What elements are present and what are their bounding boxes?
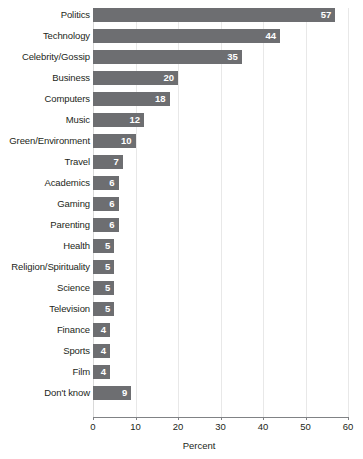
category-label: Religion/Spirituality [11,260,90,274]
bar-container: 5 [93,260,114,274]
bar-container: 4 [93,344,110,358]
chart-row: Celebrity/Gossip35 [0,50,363,71]
bar-value-label: 5 [105,281,110,295]
chart-rows: Politics57Technology44Celebrity/Gossip35… [0,8,363,407]
bar: 44 [93,29,280,43]
bar: 12 [93,113,144,127]
bar-value-label: 57 [321,8,332,22]
tick-label-40: 40 [258,421,269,432]
category-label: Parenting [50,218,90,232]
bar-container: 20 [93,71,178,85]
chart-row: Gaming6 [0,197,363,218]
tick-label-0: 0 [90,421,95,432]
bar-value-label: 5 [105,239,110,253]
chart-row: Technology44 [0,29,363,50]
chart-row: Politics57 [0,8,363,29]
bar-value-label: 12 [129,113,140,127]
bar: 35 [93,50,242,64]
bar-container: 6 [93,197,119,211]
tick-mark-0 [93,417,94,420]
category-label: Music [66,113,90,127]
category-label: Sports [63,344,90,358]
tick-mark-60 [348,417,349,420]
chart-row: Don't know9 [0,386,363,407]
bar-container: 44 [93,29,280,43]
bar-value-label: 35 [227,50,238,64]
category-label: Technology [43,29,90,43]
bar-value-label: 6 [109,176,114,190]
tick-mark-50 [306,417,307,420]
tick-mark-20 [178,417,179,420]
chart-row: Green/Environment10 [0,134,363,155]
bar: 4 [93,365,110,379]
tick-label-60: 60 [343,421,354,432]
bar-container: 9 [93,386,131,400]
bar: 5 [93,239,114,253]
bar-container: 6 [93,218,119,232]
category-label: Politics [61,8,90,22]
bar-container: 4 [93,323,110,337]
bar-value-label: 4 [101,365,106,379]
bar: 57 [93,8,335,22]
category-label: Travel [65,155,90,169]
bar: 5 [93,302,114,316]
bar: 6 [93,218,119,232]
bar-value-label: 18 [155,92,166,106]
bar: 6 [93,197,119,211]
category-label: Academics [44,176,90,190]
bar-value-label: 5 [105,260,110,274]
bar-value-label: 6 [109,218,114,232]
x-axis-title: Percent [0,440,363,451]
tick-label-10: 10 [130,421,141,432]
category-label: Gaming [57,197,90,211]
bar: 10 [93,134,136,148]
chart-row: Academics6 [0,176,363,197]
category-label: Don't know [44,386,90,400]
tick-mark-10 [136,417,137,420]
chart-row: Travel7 [0,155,363,176]
bar-container: 35 [93,50,242,64]
bar-value-label: 5 [105,302,110,316]
bar-container: 4 [93,365,110,379]
category-label: Science [57,281,90,295]
bar: 18 [93,92,170,106]
bar: 7 [93,155,123,169]
tick-mark-40 [263,417,264,420]
chart-row: Television5 [0,302,363,323]
chart-row: Parenting6 [0,218,363,239]
bar-value-label: 20 [163,71,174,85]
bar-container: 10 [93,134,136,148]
bar-container: 12 [93,113,144,127]
chart-row: Religion/Spirituality5 [0,260,363,281]
category-label: Business [52,71,90,85]
tick-label-50: 50 [300,421,311,432]
chart-row: Music12 [0,113,363,134]
category-label: Celebrity/Gossip [22,50,90,64]
chart-row: Science5 [0,281,363,302]
category-label: Television [49,302,90,316]
bar: 20 [93,71,178,85]
category-label: Green/Environment [9,134,90,148]
bar-value-label: 4 [101,344,106,358]
bar-container: 18 [93,92,170,106]
chart-row: Business20 [0,71,363,92]
tick-label-30: 30 [215,421,226,432]
bar: 4 [93,344,110,358]
tick-label-20: 20 [173,421,184,432]
chart-row: Finance4 [0,323,363,344]
bar-container: 5 [93,281,114,295]
bar-container: 5 [93,239,114,253]
category-label: Film [72,365,90,379]
tick-mark-30 [221,417,222,420]
bar: 5 [93,281,114,295]
bar-container: 7 [93,155,123,169]
chart-row: Film4 [0,365,363,386]
bar: 5 [93,260,114,274]
bar-chart: Politics57Technology44Celebrity/Gossip35… [0,0,363,459]
category-label: Computers [44,92,90,106]
bar-value-label: 9 [122,386,127,400]
bar-container: 5 [93,302,114,316]
bar-container: 57 [93,8,335,22]
category-label: Health [63,239,90,253]
bar-value-label: 6 [109,197,114,211]
